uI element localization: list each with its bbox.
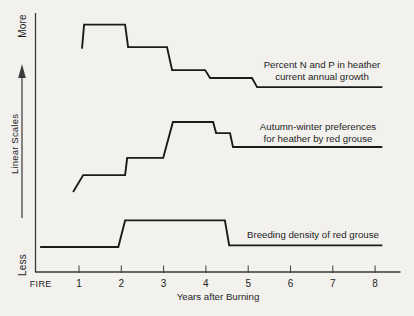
x-tick-label-6: 6: [288, 278, 294, 289]
series-label-line: for heather by red grouse: [247, 133, 389, 145]
series-label-line: Percent N and P in heather: [252, 59, 392, 71]
up-arrow-icon: [18, 64, 26, 78]
x-tick-label-8: 8: [372, 278, 378, 289]
x-tick-label-5: 5: [245, 278, 251, 289]
series-label-breeding-density: Breeding density of red grouse: [240, 229, 386, 241]
figure-canvas: More Linear Scales Less Percent N and P …: [0, 0, 414, 316]
chart-svg: [0, 0, 414, 316]
x-tick-label-2: 2: [119, 278, 125, 289]
series-label-percent-n-and-p: Percent N and P in heather current annua…: [252, 59, 392, 82]
x-tick-label-1: 1: [76, 278, 82, 289]
x-tick-label-3: 3: [161, 278, 167, 289]
y-axis-less-label: Less: [17, 254, 28, 276]
series-label-line: Autumn-winter preferences: [247, 121, 389, 133]
x-axis-title: Years after Burning: [142, 291, 294, 302]
series-label-line: Breeding density of red grouse: [240, 229, 386, 241]
x-tick-label-4: 4: [203, 278, 209, 289]
y-axis-more-label: More: [16, 14, 27, 38]
series-label-autumn-winter-preferences: Autumn-winter preferences for heather by…: [247, 121, 389, 144]
x-tick-label-fire: FIRE: [30, 279, 52, 289]
y-axis-title: Linear Scales: [8, 114, 19, 174]
x-tick-label-7: 7: [330, 278, 336, 289]
series-label-line: current annual growth: [252, 71, 392, 83]
